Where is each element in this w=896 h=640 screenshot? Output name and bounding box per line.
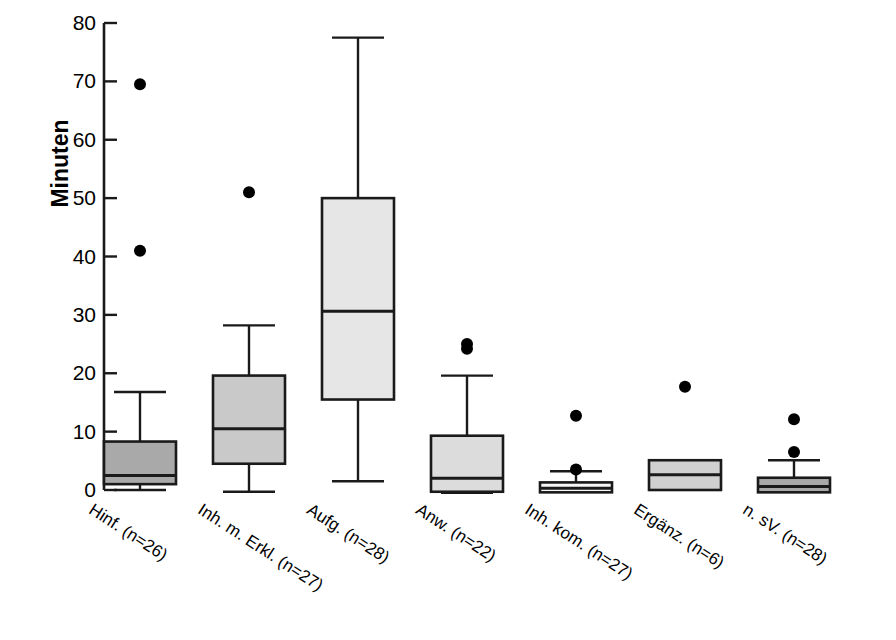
box-body [104, 442, 176, 485]
outlier-point [788, 413, 800, 425]
outlier-point [679, 381, 691, 393]
box-body [213, 376, 285, 464]
outlier-point [788, 446, 800, 458]
box-body [322, 198, 394, 399]
outlier-point [461, 338, 473, 350]
boxplot-chart: Minuten 80706050403020100 Hinf. (n=26)In… [0, 0, 896, 640]
outlier-point [243, 186, 255, 198]
outlier-point [570, 464, 582, 476]
box-body [431, 436, 503, 492]
outlier-point [570, 410, 582, 422]
outlier-point [134, 245, 146, 257]
outlier-point [134, 78, 146, 90]
